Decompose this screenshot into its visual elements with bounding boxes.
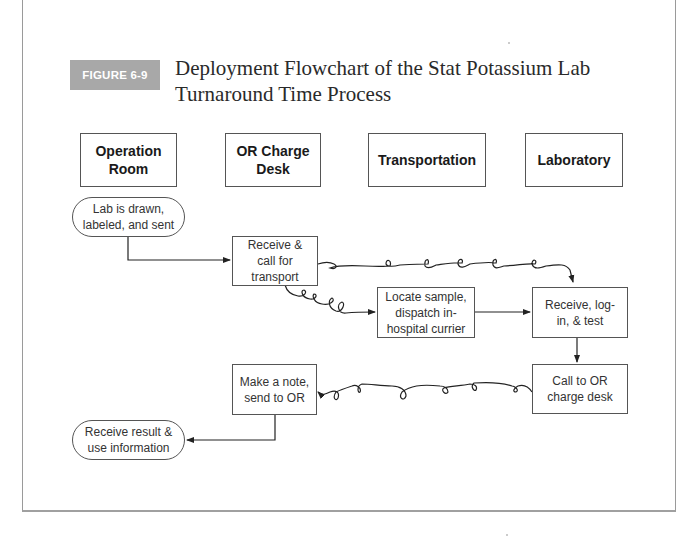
step-text: Lab is drawn,	[93, 201, 164, 217]
step-text: Call to OR	[552, 373, 607, 389]
lane-header-label: Transportation	[378, 151, 476, 169]
step-text: hospital currier	[387, 321, 466, 337]
lane-header-label: Room	[109, 160, 149, 178]
step-text: labeled, and sent	[83, 217, 174, 233]
step-locate-sample: Locate sample, dispatch in- hospital cur…	[377, 287, 475, 338]
lane-header-label: Operation	[95, 142, 161, 160]
step-text: call for	[257, 253, 292, 269]
step-receive-login-test: Receive, log- in, & test	[532, 287, 628, 338]
connector-receive-to-lab-curly	[318, 259, 573, 282]
lane-header-laboratory: Laboratory	[525, 133, 623, 187]
step-text: transport	[251, 269, 298, 285]
step-text: Receive &	[248, 237, 303, 253]
step-text: Locate sample,	[385, 289, 466, 305]
lane-header-label: OR Charge	[236, 142, 309, 160]
connector-receive-to-transport-curly	[285, 285, 375, 313]
step-lab-drawn: Lab is drawn, labeled, and sent	[72, 197, 185, 237]
scan-speck	[506, 534, 508, 536]
step-receive-result: Receive result & use information	[72, 420, 185, 460]
step-text: Receive, log-	[545, 297, 615, 313]
step-text: charge desk	[547, 389, 612, 405]
connectors	[0, 0, 684, 544]
step-make-note: Make a note, send to OR	[232, 364, 317, 415]
step-text: Make a note,	[240, 374, 309, 390]
lane-header-label: Laboratory	[537, 151, 610, 169]
step-text: send to OR	[244, 390, 305, 406]
step-text: Receive result &	[85, 424, 172, 440]
step-call-or-desk: Call to OR charge desk	[532, 364, 628, 414]
connector-note-to-result	[187, 414, 275, 440]
step-text: dispatch in-	[395, 305, 456, 321]
step-text: in, & test	[557, 313, 604, 329]
step-receive-call-transport: Receive & call for transport	[232, 236, 318, 286]
connector-call-to-note-curly	[318, 382, 532, 399]
connector-lab-to-receive	[128, 236, 230, 260]
scan-speck	[508, 42, 510, 44]
step-text: use information	[87, 440, 169, 456]
lane-header-transportation: Transportation	[368, 133, 486, 187]
lane-header-or-charge-desk: OR Charge Desk	[225, 133, 321, 187]
lane-header-label: Desk	[256, 160, 289, 178]
lane-header-operation-room: Operation Room	[80, 133, 177, 187]
